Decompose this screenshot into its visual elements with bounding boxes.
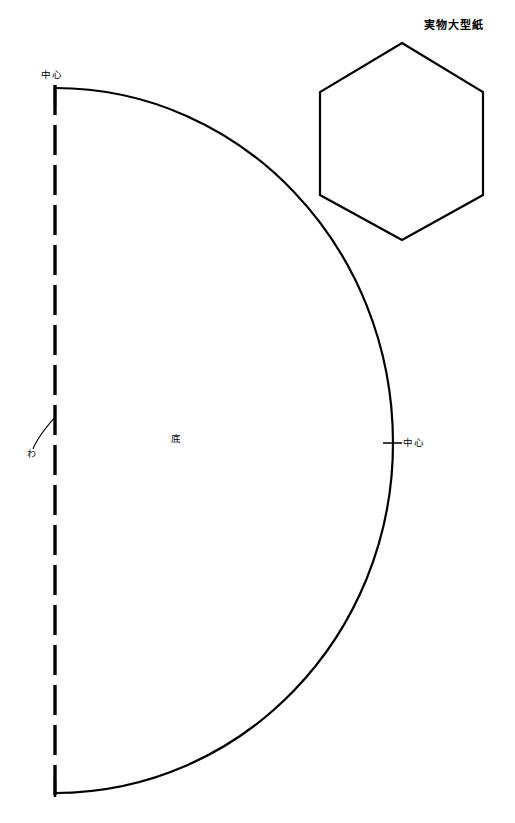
label-center-right: 中心: [403, 438, 424, 448]
page-title: 実物大型紙: [424, 20, 484, 31]
label-bottom-piece: 底: [171, 434, 182, 444]
bottom-piece-arc: [55, 88, 393, 793]
label-fold-mark: わ: [27, 450, 37, 459]
hexagon-piece: [320, 43, 483, 240]
pattern-drawing: [0, 0, 515, 823]
fold-hook-arc: [33, 416, 56, 449]
label-center-top: 中心: [41, 70, 62, 80]
pattern-sheet: 実物大型紙 中心 中心 底 わ: [0, 0, 515, 823]
